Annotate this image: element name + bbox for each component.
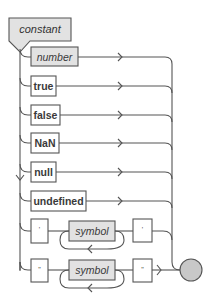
alt-double-quoted-symbol: " symbol "	[20, 259, 180, 292]
end-circle	[180, 259, 202, 281]
close-single-quote-label: '	[142, 226, 143, 233]
branch-in	[20, 223, 31, 231]
nonterminal-number-label: number	[37, 51, 73, 63]
rail-mask	[17, 271, 23, 305]
alt-false: false	[20, 105, 172, 125]
open-single-quote-label: '	[39, 226, 40, 233]
branch-in	[20, 107, 31, 115]
nonterminal-symbol-label: symbol	[75, 225, 109, 237]
terminal-nan-label: NaN	[34, 137, 55, 149]
alt-null: null	[20, 162, 172, 182]
alt-nan: NaN	[20, 133, 172, 153]
branch-out	[59, 143, 172, 150]
terminal-true-label: true	[34, 80, 54, 92]
railroad-diagram: constant number true false NaN	[0, 0, 212, 305]
nonterminal-symbol-label: symbol	[75, 264, 109, 276]
terminal-undefined-label: undefined	[33, 195, 83, 207]
branch-out	[60, 115, 172, 122]
branch-out	[152, 231, 172, 240]
alt-true: true	[20, 76, 172, 96]
terminal-false-label: false	[34, 109, 58, 121]
alt-single-quoted-symbol: ' symbol '	[20, 219, 172, 253]
branch-out	[56, 86, 172, 93]
alt-undefined: undefined	[20, 191, 172, 211]
branch-in	[20, 262, 31, 270]
branch-out	[78, 57, 172, 64]
right-rail	[172, 64, 180, 270]
branch-in	[20, 164, 31, 172]
branch-out	[56, 172, 172, 179]
branch-out	[86, 201, 172, 208]
alt-number: number	[20, 47, 172, 66]
branch-in	[20, 193, 31, 201]
branch-in	[20, 78, 31, 86]
branch-in	[20, 135, 31, 143]
diagram-title: constant	[19, 23, 62, 35]
terminal-null-label: null	[34, 166, 53, 178]
